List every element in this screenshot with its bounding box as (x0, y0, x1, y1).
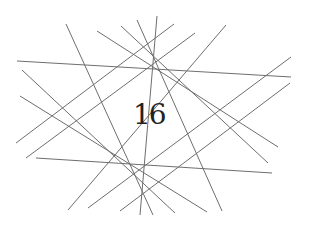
diagram-line-13 (22, 70, 175, 213)
diagram-line-5 (97, 31, 278, 147)
diagram-line-2 (36, 158, 272, 173)
diagram-line-11 (88, 57, 291, 208)
diagram-line-6 (121, 26, 268, 163)
diagram-line-10 (26, 33, 195, 158)
center-number-label: 16 (133, 98, 163, 132)
